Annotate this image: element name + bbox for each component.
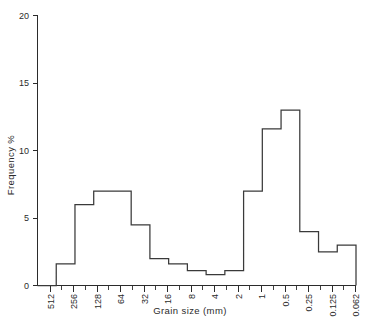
x-tick-label-32: 32 <box>140 294 150 304</box>
x-tick-label-0-5: 0.5 <box>281 294 291 307</box>
y-tick-label-0: 0 <box>24 281 29 291</box>
x-tick-label-2: 2 <box>234 294 244 299</box>
histogram-step-outline <box>38 110 357 286</box>
x-tick-label-4: 4 <box>210 294 220 299</box>
x-tick-label-8: 8 <box>187 294 197 299</box>
y-tick-label-20: 20 <box>19 11 29 21</box>
y-axis-title: Frequency % <box>5 135 16 196</box>
y-tick-label-10: 10 <box>19 146 29 156</box>
y-tick-label-5: 5 <box>24 213 29 223</box>
x-tick-label-0-125: 0.125 <box>328 294 338 317</box>
y-axis-tick-labels: 0 5 10 15 20 <box>19 11 29 291</box>
x-tick-label-128: 128 <box>93 294 103 309</box>
x-tick-label-16: 16 <box>163 294 173 304</box>
y-tick-label-15: 15 <box>19 78 29 88</box>
x-tick-label-0-25: 0.25 <box>304 294 314 312</box>
histogram-plot-area: 0 5 10 15 20 <box>0 0 370 323</box>
grain-size-histogram-figure: 0 5 10 15 20 <box>0 0 370 323</box>
x-tick-label-0-062: 0.062 <box>351 294 361 317</box>
x-tick-label-512: 512 <box>46 294 56 309</box>
y-axis-ticks <box>33 16 38 286</box>
x-tick-label-1: 1 <box>257 294 267 299</box>
x-axis-title: Grain size (mm) <box>153 305 227 316</box>
x-tick-label-256: 256 <box>69 294 79 309</box>
x-tick-label-64: 64 <box>116 294 126 304</box>
